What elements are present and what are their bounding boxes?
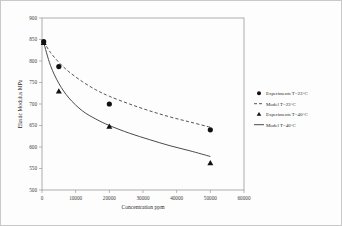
y-tick-label: 600 xyxy=(29,144,37,150)
data-point-circle xyxy=(107,101,112,106)
model-curves xyxy=(44,42,211,157)
y-tick-label: 750 xyxy=(29,79,37,85)
y-tick-label: 550 xyxy=(29,165,37,171)
legend-item: Model T=23°C xyxy=(254,102,296,107)
legend-label: Model T=23°C xyxy=(266,102,296,107)
legend-marker-circle xyxy=(257,91,261,95)
x-axis-title: Concentration ppm xyxy=(121,204,165,210)
x-tick-label: 30000 xyxy=(137,195,150,201)
legend-marker-triangle xyxy=(257,112,262,116)
plot-frame xyxy=(42,18,244,190)
x-tick-label: 60000 xyxy=(238,195,251,201)
legend-item: Model T=40°C xyxy=(254,123,296,128)
y-axis-title: Elastic Modulus MPa xyxy=(17,79,23,128)
y-tick-label: 500 xyxy=(29,187,37,193)
data-points xyxy=(41,39,214,165)
x-tick-label: 0 xyxy=(41,195,44,201)
y-tick-label: 650 xyxy=(29,122,37,128)
x-tick-label: 40000 xyxy=(170,195,183,201)
x-axis-ticks: 0100002000030000400005000060000 xyxy=(41,190,251,201)
y-tick-label: 900 xyxy=(29,15,37,21)
chart-figure: 500550600650700750800850900 010000200003… xyxy=(0,0,342,226)
data-point-circle xyxy=(56,64,61,69)
legend-label: Experiments T=23°C xyxy=(266,91,308,96)
y-tick-label: 850 xyxy=(29,36,37,42)
data-point-triangle xyxy=(56,88,62,93)
y-tick-label: 700 xyxy=(29,101,37,107)
data-point-triangle xyxy=(207,160,213,165)
chart-legend: Experiments T=23°CModel T=23°CExperiment… xyxy=(254,91,308,128)
y-tick-label: 800 xyxy=(29,58,37,64)
x-tick-label: 10000 xyxy=(69,195,82,201)
legend-item: Experiments T=23°C xyxy=(257,91,308,96)
data-point-circle xyxy=(208,127,213,132)
legend-label: Experiments T=40°C xyxy=(266,112,308,117)
model-curve-3 xyxy=(44,43,211,157)
x-tick-label: 20000 xyxy=(103,195,116,201)
legend-item: Experiments T=40°C xyxy=(257,112,308,117)
chart-svg: 500550600650700750800850900 010000200003… xyxy=(1,1,342,226)
legend-label: Model T=40°C xyxy=(266,123,296,128)
plot-container: 500550600650700750800850900 010000200003… xyxy=(1,1,342,226)
y-axis-ticks: 500550600650700750800850900 xyxy=(29,15,42,193)
model-curve-1 xyxy=(44,42,211,128)
x-tick-label: 50000 xyxy=(204,195,217,201)
